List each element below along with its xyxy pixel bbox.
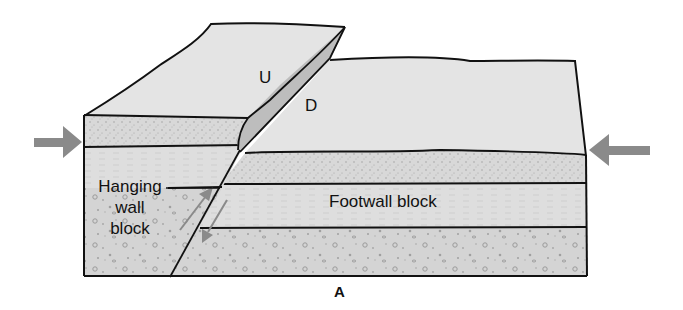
figure-letter: A [334,283,345,300]
footwall-label: Footwall block [329,192,437,212]
hanging-wall-label-line3: block [90,218,170,239]
fault-block-diagram [0,0,683,310]
hanging-wall-label-line1: Hanging [90,176,170,197]
compression-arrow-left [34,126,82,158]
downthrown-label: D [305,96,317,116]
compression-arrow-right [589,134,650,166]
upthrown-label: U [259,68,271,88]
hanging-wall-sand-layer [84,115,247,147]
hanging-wall-label-line2: wall [90,197,170,218]
footwall-sand-layer [221,150,587,184]
footwall-conglomerate-layer [170,228,587,276]
hanging-wall-label: Hanging wall block [90,176,170,239]
